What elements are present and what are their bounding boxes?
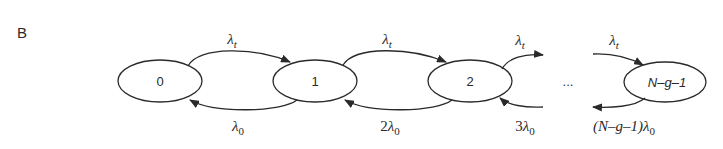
backward-arrow-2-1 (345, 100, 452, 110)
forward-arrow-1-2 (343, 51, 446, 65)
state-label: N–g–1 (648, 75, 686, 90)
backward-arrow-1-0 (190, 100, 297, 110)
state-node-0: 0 (118, 60, 202, 102)
state-transition-diagram: 0 1 2 ... N–g–1 λt λt λt λt λ0 2λ0 3λ0 (… (0, 0, 723, 149)
backward-arrow-dots-2 (500, 98, 543, 107)
state-node-2: 2 (428, 60, 512, 102)
rate-label-backward: λ0 (231, 118, 245, 137)
rate-label-backward: 2λ0 (380, 118, 400, 137)
rate-label-backward: (N–g–1)λ0 (593, 118, 656, 137)
state-label: 2 (466, 74, 473, 89)
backward-arrow-last-dots (593, 98, 645, 107)
state-node-1: 1 (273, 60, 357, 102)
rate-label-forward: λt (608, 32, 620, 51)
rate-label-backward: 3λ0 (515, 118, 535, 137)
forward-arrow-dots-last (593, 54, 643, 65)
rate-label-forward: λt (226, 31, 238, 50)
rate-label-forward: λt (381, 31, 393, 50)
forward-arrow-0-1 (188, 51, 290, 66)
rate-label-forward: λt (514, 32, 526, 51)
state-label: 1 (311, 74, 318, 89)
state-node-N-g-1: N–g–1 (624, 62, 706, 102)
state-label: 0 (156, 74, 163, 89)
ellipsis: ... (563, 74, 574, 89)
forward-arrow-2-dots (502, 55, 543, 69)
